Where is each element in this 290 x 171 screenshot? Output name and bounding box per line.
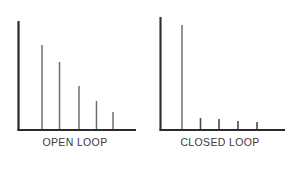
open-loop-panel: OPEN LOOP: [0, 0, 145, 171]
open-loop-bars: [19, 22, 114, 130]
comparison-figure: OPEN LOOP CLOSED LOOP: [0, 0, 290, 171]
open-loop-caption: OPEN LOOP: [14, 134, 136, 150]
closed-loop-caption: CLOSED LOOP: [155, 134, 285, 150]
closed-loop-panel: CLOSED LOOP: [145, 0, 290, 171]
closed-loop-bars: [182, 25, 257, 130]
